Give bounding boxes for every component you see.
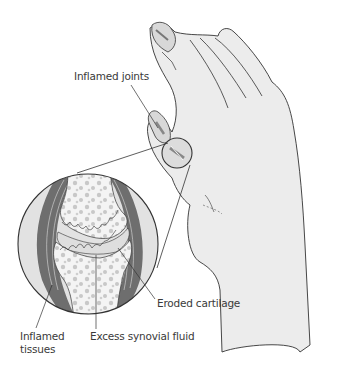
leader-inflamed-joints xyxy=(131,85,158,128)
magnified-joint xyxy=(18,170,158,320)
label-inflamed-tissues: Inflamed tissues xyxy=(20,330,65,356)
zoom-line-top xyxy=(77,143,168,173)
rheumatoid-arthritis-illustration xyxy=(0,0,349,378)
label-inflamed-joints: Inflamed joints xyxy=(74,70,149,83)
label-excess-synovial-fluid: Excess synovial fluid xyxy=(90,330,194,343)
label-eroded-cartilage: Eroded cartilage xyxy=(157,297,240,310)
